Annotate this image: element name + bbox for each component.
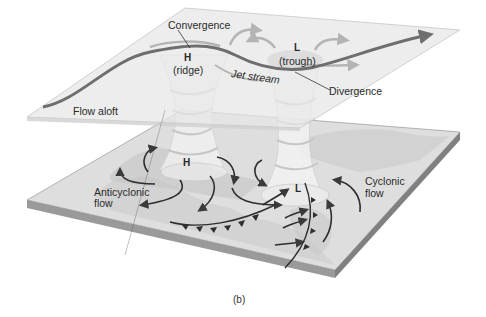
surface-high-label: H: [183, 158, 190, 168]
diagram-canvas: [0, 0, 486, 317]
flow-aloft-label: Flow aloft: [73, 106, 118, 117]
trough-label: (trough): [279, 56, 316, 67]
surface-low-label: L: [295, 184, 301, 194]
convergence-label: Convergence: [168, 20, 230, 31]
upper-high-label: H: [184, 53, 191, 63]
figure-caption: (b): [233, 294, 245, 305]
upper-low-label: L: [294, 43, 300, 53]
ridge-label: (ridge): [173, 65, 203, 76]
cyclonic-label: Cyclonic: [365, 176, 405, 187]
anticyclonic-flow-label: flow: [94, 198, 113, 209]
divergence-label: Divergence: [329, 86, 382, 97]
figure: Convergence H (ridge) L (trough) Jet str…: [0, 0, 486, 317]
surface-slab: [27, 110, 460, 278]
anticyclonic-label: Anticyclonic: [94, 187, 149, 198]
cyclonic-flow-label: flow: [365, 188, 384, 199]
